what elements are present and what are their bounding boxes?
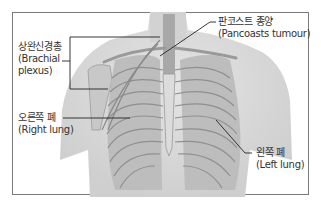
left-lung-label: 왼쪽 폐 (Left lung) <box>256 147 304 171</box>
left-lung-en: (Left lung) <box>256 159 304 171</box>
brachial-plexus-en2: plexus) <box>18 65 62 77</box>
brachial-plexus-label: 상완신경총 (Brachial plexus) <box>18 41 62 77</box>
right-lung-label: 오른쪽 폐 (Right lung) <box>18 112 74 136</box>
pancoast-tumour-en: (Pancoasts tumour) <box>218 28 310 40</box>
brachial-plexus-en: (Brachial <box>18 53 62 65</box>
left-lung-ko: 왼쪽 폐 <box>256 147 304 159</box>
spine <box>163 14 175 74</box>
right-lung-ko: 오른쪽 폐 <box>18 112 74 124</box>
pancoast-tumour-label: 판코스트 종양 (Pancoasts tumour) <box>218 16 310 40</box>
brachial-plexus-ko: 상완신경총 <box>18 41 62 53</box>
right-lung-en: (Right lung) <box>18 124 74 136</box>
left-lung-shape <box>180 55 240 190</box>
pancoast-tumour-ko: 판코스트 종양 <box>218 16 310 28</box>
